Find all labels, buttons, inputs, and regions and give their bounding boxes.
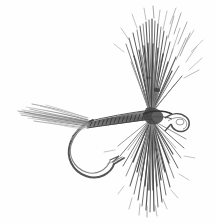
fly-illustration-svg	[0, 0, 216, 223]
paper-grain-overlay	[0, 0, 216, 223]
fly-illustration-figure: Black and white engraving of an artifici…	[0, 0, 216, 223]
